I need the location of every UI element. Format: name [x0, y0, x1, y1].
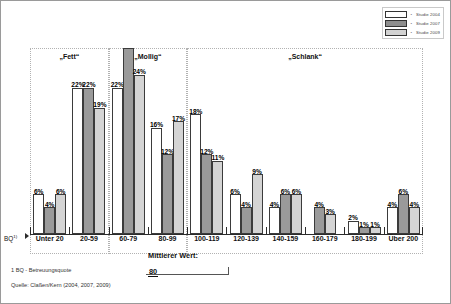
x-tick [384, 227, 423, 234]
bar-value-label: 18% [189, 108, 202, 115]
legend-label-2004: Studie 2004 [416, 12, 440, 17]
x-tick [344, 227, 383, 234]
x-tick [69, 227, 108, 234]
bar-value-label: 4% [241, 201, 251, 208]
bar-group-160-179: 4%3% [305, 48, 344, 234]
bar-value-label: 2% [348, 214, 358, 221]
legend-bullet-2009: • [410, 30, 412, 35]
bar-2004-80-99: 16% [151, 128, 162, 234]
mean-annotation: Mittlerer Wert: 80 [148, 251, 198, 278]
legend-item-2007: • Studie 2007 [385, 19, 440, 27]
bar-value-label: 9% [252, 168, 262, 175]
bar-value-label: 6% [230, 188, 240, 195]
bar-value-label: 16% [150, 121, 163, 128]
x-axis-labels: Unter 2020-5960-7980-99100-119120-139140… [30, 235, 423, 242]
legend-bullet-2004: • [410, 12, 412, 17]
bar-group-100-119: 18%12%11% [187, 48, 226, 234]
bar-2009-100-119: 11% [212, 161, 223, 234]
bar-value-label: 6% [281, 188, 291, 195]
bar-value-label: 4% [45, 201, 55, 208]
bar-2004-20-59: 22% [72, 88, 83, 234]
legend-item-2009: • Studie 2009 [385, 28, 440, 36]
axis-name-text: BQ [4, 235, 13, 242]
mean-annotation-title: Mittlerer Wert: [148, 251, 198, 260]
chart-figure: • Studie 2004 • Studie 2007 • Studie 200… [0, 0, 451, 304]
legend-swatch-2009 [385, 29, 407, 36]
bar-2009-60-79: 24% [134, 75, 145, 234]
bar-group-120-139: 6%4%9% [226, 48, 265, 234]
bar-groups: 6%4%6%22%22%19%22%24%16%12%17%18%12%11%6… [30, 48, 423, 234]
bar-group-80-99: 16%12%17% [148, 48, 187, 234]
bar-value-label: 6% [56, 188, 66, 195]
bar-value-label: 4% [410, 201, 420, 208]
bar-group-140-159: 4%6%6% [266, 48, 305, 234]
bar-value-label: 22% [82, 81, 95, 88]
x-tick [305, 227, 344, 234]
axis-name-superscript: 1) [13, 234, 17, 239]
bar-value-label: 11% [211, 154, 224, 161]
x-tick [148, 227, 187, 234]
x-label-160-179: 160-179 [305, 235, 344, 242]
axis-arrow-icon [25, 233, 29, 239]
x-label-60-79: 60-79 [109, 235, 148, 242]
bar-2009-120-139: 9% [252, 174, 263, 234]
legend-swatch-2007 [385, 20, 407, 27]
x-tick [30, 227, 69, 234]
bar-2004-60-79: 22% [112, 88, 123, 234]
plot-area: „Fett“ „Mollig“ „Schlank“ 6%4%6%22%22%19… [30, 48, 423, 234]
bar-2009-80-99: 17% [173, 121, 184, 234]
chart-legend: • Studie 2004 • Studie 2007 • Studie 200… [382, 7, 444, 39]
bar-value-label: 6% [399, 188, 409, 195]
bar-2004-100-119: 18% [190, 114, 201, 234]
x-label-unter-20: Unter 20 [30, 235, 69, 242]
bar-group-60-79: 22%24% [109, 48, 148, 234]
bar-value-label: 6% [292, 188, 302, 195]
x-label-140-159: 140-159 [266, 235, 305, 242]
mean-annotation-bracket [146, 267, 229, 275]
bar-2007-60-79 [123, 48, 134, 234]
bar-group-unter-20: 6%4%6% [30, 48, 69, 234]
x-tick [266, 227, 305, 234]
bar-2009-20-59: 19% [94, 108, 105, 234]
bar-group--ber-200: 4%6%4% [384, 48, 423, 234]
x-label-100-119: 100-119 [187, 235, 226, 242]
legend-label-2009: Studie 2009 [416, 30, 440, 35]
x-label-120-139: 120-139 [226, 235, 265, 242]
axis-name-bq: BQ1) [4, 234, 17, 242]
bar-2007-80-99: 12% [162, 154, 173, 234]
x-label-20-59: 20-59 [69, 235, 108, 242]
bar-value-label: 19% [93, 101, 106, 108]
x-tick [226, 227, 265, 234]
bar-value-label: 4% [388, 201, 398, 208]
bar-value-label: 4% [270, 201, 280, 208]
bar-2007-100-119: 12% [201, 154, 212, 234]
bar-value-label: 3% [325, 208, 335, 215]
x-axis-ticks [30, 227, 423, 234]
footnote-text: 1 BQ - Betreuungsquote [11, 267, 71, 273]
bar-value-label: 17% [172, 115, 185, 122]
bar-value-label: 24% [133, 68, 146, 75]
bar-group-180-199: 2%1%1% [344, 48, 383, 234]
x-tick [109, 227, 148, 234]
bar-group-20-59: 22%22%19% [69, 48, 108, 234]
x-tick [187, 227, 226, 234]
source-text: Quelle: Claßen/Kern (2004, 2007, 2009) [11, 282, 111, 288]
bar-value-label: 4% [314, 201, 324, 208]
bar-2007-20-59: 22% [83, 88, 94, 234]
x-label-80-99: 80-99 [148, 235, 187, 242]
legend-item-2004: • Studie 2004 [385, 10, 440, 18]
x-label-180-199: 180-199 [344, 235, 383, 242]
legend-bullet-2007: • [410, 21, 412, 26]
bar-value-label: 6% [34, 188, 44, 195]
x-label--ber-200: Über 200 [384, 235, 423, 242]
legend-swatch-2004 [385, 11, 407, 18]
legend-label-2007: Studie 2007 [416, 21, 440, 26]
